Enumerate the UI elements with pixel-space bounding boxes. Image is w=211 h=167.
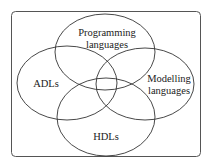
label-modelling-line2: languages (148, 85, 190, 96)
ellipse-programming-languages (55, 14, 155, 90)
ellipse-adls (17, 46, 117, 120)
label-modelling-line1: Modelling (147, 73, 191, 84)
ellipse-modelling-languages (96, 48, 194, 120)
label-programming-line2: languages (86, 39, 128, 50)
label-programming-line1: Programming (78, 27, 136, 38)
label-hdls: HDLs (93, 131, 119, 142)
venn-diagram: Programming languages ADLs Modelling lan… (0, 0, 211, 167)
label-adls: ADLs (33, 78, 59, 89)
